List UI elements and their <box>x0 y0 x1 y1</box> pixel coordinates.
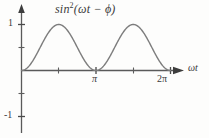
figure-container: sin2(ωt − ϕ) 1 -1 π 2π ωt <box>0 0 209 138</box>
x-axis-tick-label-pi: π <box>92 74 97 84</box>
plot-canvas <box>0 0 209 138</box>
x-axis-label: ωt <box>188 63 198 73</box>
chart-title: sin2(ωt − ϕ) <box>55 3 116 15</box>
chart-title-argument: (ωt − ϕ) <box>74 2 116 16</box>
x-axis-tick-label-2pi: 2π <box>157 74 167 84</box>
x-axis-arrow-icon <box>173 67 184 74</box>
y-axis-tick-label-1: 1 <box>8 18 13 28</box>
sin-squared-curve <box>22 25 171 71</box>
y-axis-tick-label-neg1: -1 <box>4 110 12 120</box>
y-axis-arrow-icon <box>18 4 25 13</box>
chart-title-base: sin <box>55 2 70 16</box>
